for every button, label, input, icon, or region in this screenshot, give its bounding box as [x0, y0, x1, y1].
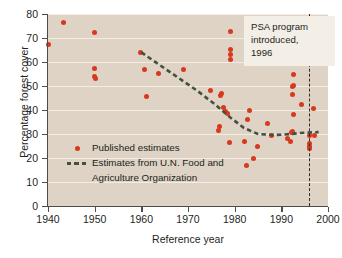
y-tick-mark — [42, 206, 47, 207]
forest-cover-scatter-chart: PSA program introduced, 1996 Published e… — [0, 0, 342, 258]
annotation-line-1: PSA program — [251, 21, 329, 34]
psa-program-annotation: PSA program introduced, 1996 — [244, 16, 335, 66]
legend-dot-icon — [66, 142, 92, 154]
legend-label-fao-line1: Estimates from U.N. Food and — [92, 157, 224, 170]
x-tick-label: 1980 — [215, 214, 255, 225]
x-tick-mark — [235, 207, 236, 212]
y-tick-mark — [42, 38, 47, 39]
x-tick-label: 1940 — [28, 214, 68, 225]
x-tick-mark — [48, 207, 49, 212]
x-tick-label: 1960 — [121, 214, 161, 225]
y-tick-mark — [42, 14, 47, 15]
x-tick-mark — [141, 207, 142, 212]
legend-dash-icon — [66, 157, 92, 169]
legend-label-fao-line2: Agriculture Organization — [92, 172, 224, 185]
x-tick-mark — [328, 207, 329, 212]
y-tick-mark — [42, 62, 47, 63]
annotation-line-3: 1996 — [251, 47, 329, 60]
y-tick-mark — [42, 110, 47, 111]
y-tick-label: 80 — [4, 9, 38, 20]
y-tick-mark — [42, 158, 47, 159]
x-tick-label: 2000 — [308, 214, 342, 225]
annotation-line-2: introduced, — [251, 34, 329, 47]
x-axis-title: Reference year — [48, 233, 328, 245]
legend-item-fao-estimates: Estimates from U.N. Food and — [66, 157, 224, 170]
x-tick-label: 1970 — [168, 214, 208, 225]
legend-item-published-estimates: Published estimates — [66, 142, 224, 155]
y-tick-label: 0 — [4, 201, 38, 212]
y-tick-mark — [42, 86, 47, 87]
y-axis-title: Percentage forest cover — [18, 22, 30, 182]
legend-label-published-estimates: Published estimates — [92, 142, 180, 155]
y-tick-mark — [42, 182, 47, 183]
chart-legend: Published estimates Estimates from U.N. … — [66, 142, 224, 185]
x-tick-label: 1950 — [75, 214, 115, 225]
x-tick-mark — [95, 207, 96, 212]
x-tick-label: 1990 — [261, 214, 301, 225]
plot-area: PSA program introduced, 1996 Published e… — [48, 14, 328, 206]
x-tick-mark — [188, 207, 189, 212]
y-axis-line — [47, 14, 48, 207]
y-tick-mark — [42, 134, 47, 135]
x-tick-mark — [281, 207, 282, 212]
